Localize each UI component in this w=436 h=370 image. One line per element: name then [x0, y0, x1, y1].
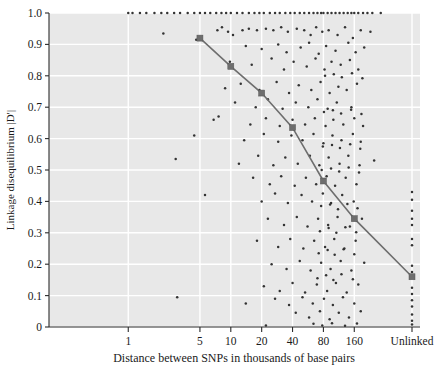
- scatter-point: [193, 12, 196, 15]
- chart-figure: 00.10.20.30.40.50.60.70.80.91.0 15102040…: [0, 0, 436, 370]
- scatter-point: [234, 101, 237, 104]
- scatter-point: [353, 12, 356, 15]
- scatter-point: [321, 324, 324, 327]
- scatter-point: [333, 254, 336, 257]
- scatter-point: [287, 202, 290, 205]
- scatter-point: [347, 42, 350, 45]
- scatter-point: [346, 203, 349, 206]
- scatter-point: [336, 216, 339, 219]
- scatter-point: [301, 139, 304, 142]
- scatter-point: [350, 269, 353, 272]
- scatter-point: [232, 34, 235, 37]
- scatter-point: [260, 48, 263, 51]
- scatter-point: [278, 125, 281, 128]
- scatter-point: [311, 200, 314, 203]
- scatter-point: [176, 296, 179, 299]
- trend-marker: [259, 90, 265, 96]
- scatter-point: [305, 177, 308, 180]
- scatter-point: [344, 226, 347, 229]
- scatter-point: [338, 170, 341, 173]
- scatter-point: [179, 12, 182, 15]
- scatter-point: [267, 217, 270, 220]
- scatter-point: [283, 68, 286, 71]
- scatter-point: [349, 59, 352, 62]
- scatter-point: [341, 194, 344, 197]
- scatter-point: [186, 12, 189, 15]
- scatter-point: [327, 224, 330, 227]
- scatter-point: [341, 76, 344, 79]
- scatter-point: [297, 162, 300, 165]
- x-tick-label: 40: [287, 335, 299, 347]
- scatter-point: [354, 51, 357, 54]
- scatter-point: [359, 29, 362, 32]
- y-tick-label: 0.6: [28, 133, 43, 145]
- scatter-point: [356, 207, 359, 210]
- scatter-point: [302, 247, 305, 250]
- trend-marker: [228, 63, 234, 69]
- scatter-point: [308, 12, 311, 15]
- scatter-point: [204, 12, 207, 15]
- scatter-point: [249, 123, 252, 126]
- scatter-point: [325, 45, 328, 48]
- scatter-point: [309, 34, 312, 37]
- scatter-point: [291, 282, 294, 285]
- scatter-point: [329, 203, 332, 206]
- scatter-point: [329, 268, 332, 271]
- scatter-point: [344, 177, 347, 180]
- scatter-point: [346, 12, 349, 15]
- scatter-point: [353, 253, 356, 256]
- scatter-point: [359, 310, 362, 313]
- scatter-point: [263, 133, 266, 136]
- scatter-point: [327, 29, 330, 32]
- scatter-point: [269, 12, 272, 15]
- scatter-point: [358, 164, 361, 167]
- scatter-point: [318, 164, 321, 167]
- scatter-point: [330, 60, 333, 63]
- scatter-point: [325, 175, 328, 178]
- scatter-point: [288, 92, 291, 95]
- scatter-point: [299, 46, 302, 49]
- scatter-point: [335, 282, 338, 285]
- scatter-point: [342, 248, 345, 251]
- scatter-point: [199, 12, 202, 15]
- scatter-point: [352, 37, 355, 40]
- scatter-point: [369, 31, 372, 34]
- scatter-point: [270, 263, 273, 266]
- scatter-point: [323, 68, 326, 71]
- scatter-point: [317, 252, 320, 255]
- scatter-point: [321, 31, 324, 34]
- scatter-point: [173, 12, 176, 15]
- scatter-point: [227, 31, 230, 34]
- scatter-point: [338, 12, 341, 15]
- scatter-point: [220, 12, 223, 15]
- scatter-point: [335, 232, 338, 235]
- scatter-point: [303, 29, 306, 32]
- scatter-point: [241, 29, 244, 32]
- scatter-point: [330, 167, 333, 170]
- scatter-point: [285, 51, 288, 54]
- scatter-point: [373, 159, 376, 162]
- scatter-point: [224, 87, 227, 90]
- x-tick-label: 160: [346, 335, 364, 347]
- scatter-point: [380, 12, 383, 15]
- scatter-point: [411, 305, 414, 308]
- scatter-point: [265, 117, 268, 120]
- scatter-point: [308, 42, 311, 45]
- scatter-point: [334, 184, 337, 187]
- scatter-point: [291, 119, 294, 122]
- scatter-point: [174, 158, 177, 161]
- scatter-point: [236, 12, 239, 15]
- scatter-point: [363, 261, 366, 264]
- scatter-point: [314, 57, 317, 60]
- scatter-point: [298, 84, 301, 87]
- scatter-point: [362, 125, 365, 128]
- scatter-point: [328, 318, 331, 321]
- scatter-point: [340, 273, 343, 276]
- scatter-point: [345, 291, 348, 294]
- scatter-point: [280, 175, 283, 178]
- scatter-point: [313, 239, 316, 242]
- scatter-point: [358, 171, 361, 174]
- scatter-point: [283, 224, 286, 227]
- scatter-point: [325, 274, 328, 277]
- scatter-point: [357, 68, 360, 71]
